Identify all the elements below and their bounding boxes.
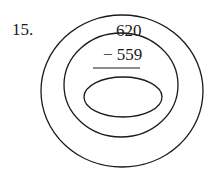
minuend-value: 620 [116, 22, 142, 39]
inner-answer-ellipse[interactable] [84, 77, 162, 117]
subtrahend-value: − 559 [103, 46, 142, 63]
problem-number: 15. [12, 21, 33, 38]
worksheet-problem: 15. 620 − 559 [0, 0, 210, 174]
